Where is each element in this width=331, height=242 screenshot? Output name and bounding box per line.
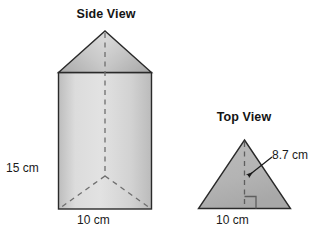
side-view-height-label: 15 cm (6, 161, 39, 175)
top-view-base-label: 10 cm (216, 213, 249, 227)
side-view-title: Side View (58, 7, 154, 21)
geometry-figure: Side View Top View 15 cm 10 cm 10 cm 8.7… (0, 0, 331, 242)
side-view-prism (59, 31, 152, 209)
top-view-title: Top View (196, 110, 292, 124)
side-view-base-label: 10 cm (77, 213, 110, 227)
top-view-altitude-label: 8.7 cm (272, 148, 308, 162)
